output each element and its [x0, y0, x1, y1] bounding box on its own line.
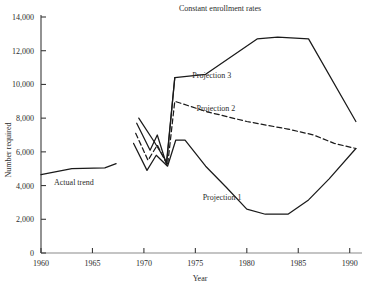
- annotation-projection-1: Projection 1: [203, 193, 242, 202]
- y-tick-label: 2,000: [16, 215, 34, 224]
- x-tick-label: 1965: [84, 259, 100, 268]
- y-tick-label: 0: [30, 249, 34, 258]
- x-tick-label: 1970: [136, 259, 152, 268]
- annotation-actual-trend: Actual trend: [54, 178, 94, 187]
- x-tick-label: 1980: [239, 259, 255, 268]
- y-tick-label: 12,000: [12, 47, 34, 56]
- x-tick-label: 1960: [33, 259, 49, 268]
- y-tick-label: 14,000: [12, 13, 34, 22]
- series-line-projection-1: [134, 140, 356, 214]
- chart-svg: 02,0004,0006,0008,00010,00012,00014,0001…: [0, 0, 366, 283]
- chart-figure: 02,0004,0006,0008,00010,00012,00014,0001…: [0, 0, 366, 283]
- series-line-actual-trend: [41, 164, 116, 175]
- chart-title: Constant enrollment rates: [179, 4, 261, 13]
- y-tick-label: 8,000: [16, 114, 34, 123]
- annotation-projection-3: Projection 3: [192, 71, 231, 80]
- x-tick-label: 1990: [342, 259, 358, 268]
- y-axis-title: Number required: [4, 123, 13, 178]
- y-tick-label: 4,000: [16, 182, 34, 191]
- x-tick-label: 1975: [187, 259, 203, 268]
- x-tick-label: 1985: [290, 259, 306, 268]
- x-axis-title: Year: [193, 274, 208, 283]
- series-line-projection-2: [136, 101, 356, 165]
- series-line-projection-3: [139, 37, 356, 162]
- y-tick-label: 10,000: [12, 80, 34, 89]
- y-tick-label: 6,000: [16, 148, 34, 157]
- annotation-projection-2: Projection 2: [196, 104, 235, 113]
